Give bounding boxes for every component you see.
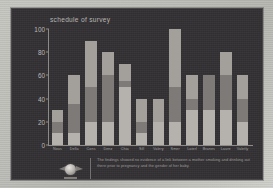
- stacked-bar[interactable]: [237, 75, 249, 145]
- bar-segment[interactable]: [220, 52, 232, 75]
- bar-segment[interactable]: [119, 87, 131, 145]
- stacked-bar[interactable]: [186, 75, 198, 145]
- stacked-bar[interactable]: [119, 64, 131, 145]
- bar-slot: [83, 29, 100, 145]
- bar-segment[interactable]: [169, 29, 181, 87]
- bar-segment[interactable]: [169, 87, 181, 122]
- bar-segment[interactable]: [136, 99, 148, 122]
- bar-segment[interactable]: [119, 64, 131, 81]
- x-axis-labels: NousDellaConsDenzChiaSillValerySmerLater…: [49, 147, 251, 151]
- bar-slot: [99, 29, 116, 145]
- stacked-bar[interactable]: [169, 29, 181, 145]
- y-axis-tick-label: 80: [38, 49, 45, 56]
- x-axis-label: Denz: [99, 147, 116, 151]
- bar-segment[interactable]: [203, 110, 215, 145]
- bar-slot: [49, 29, 66, 145]
- bar-segment[interactable]: [186, 75, 198, 98]
- bar-segment[interactable]: [85, 87, 97, 122]
- stacked-bar[interactable]: [153, 99, 165, 145]
- bar-segment[interactable]: [102, 122, 114, 145]
- emblem-wing-right: [76, 166, 83, 171]
- bar-segment[interactable]: [136, 122, 148, 134]
- x-axis-label: Nous: [49, 147, 66, 151]
- bar-segment[interactable]: [169, 122, 181, 145]
- bar-segment[interactable]: [68, 104, 80, 133]
- bar-segment[interactable]: [186, 99, 198, 111]
- bar-segment[interactable]: [237, 122, 249, 145]
- x-axis-label: Smer: [167, 147, 184, 151]
- bar-segment[interactable]: [153, 99, 165, 122]
- stacked-bar[interactable]: [85, 41, 97, 145]
- bar-slot: [167, 29, 184, 145]
- x-axis-label: Cons: [83, 147, 100, 151]
- bar-segment[interactable]: [85, 41, 97, 87]
- x-axis-label: Branes: [200, 147, 217, 151]
- y-axis-tick-label: 60: [38, 72, 45, 79]
- stacked-bar[interactable]: [203, 75, 215, 145]
- bar-segment[interactable]: [186, 110, 198, 145]
- bar-segment[interactable]: [102, 52, 114, 75]
- bar-slot: [150, 29, 167, 145]
- x-axis-label: Della: [66, 147, 83, 151]
- x-axis-line: [48, 145, 253, 146]
- stacked-bar[interactable]: [52, 110, 64, 145]
- stacked-bar[interactable]: [136, 99, 148, 145]
- x-axis-label: Laure: [217, 147, 234, 151]
- bar-slot: [234, 29, 251, 145]
- bar-segment[interactable]: [52, 110, 64, 122]
- bar-segment[interactable]: [220, 75, 232, 110]
- x-axis-label: Valetly: [234, 147, 251, 151]
- bar-slot: [116, 29, 133, 145]
- bar-segment[interactable]: [68, 133, 80, 145]
- footer-caption: The findings showed no evidence of a lin…: [97, 157, 250, 169]
- institution-emblem-icon: [58, 157, 84, 180]
- emblem-base: [64, 177, 77, 179]
- bar-segment[interactable]: [52, 133, 64, 145]
- x-axis-label: Laterl: [184, 147, 201, 151]
- bar-slot: [66, 29, 83, 145]
- y-axis-tick-label: 40: [38, 95, 45, 102]
- emblem-orb: [65, 164, 76, 175]
- stacked-bar[interactable]: [68, 75, 80, 145]
- bar-segment[interactable]: [203, 75, 215, 110]
- chart-title: schedule of survey: [50, 16, 110, 23]
- bar-slot: [133, 29, 150, 145]
- bar-segment[interactable]: [153, 122, 165, 145]
- stacked-bar[interactable]: [220, 52, 232, 145]
- bar-slot: [217, 29, 234, 145]
- y-axis-tick-label: 0: [41, 142, 45, 149]
- bar-segment[interactable]: [102, 75, 114, 121]
- bar-segment[interactable]: [237, 99, 249, 122]
- chart-footer: The findings showed no evidence of a lin…: [58, 157, 250, 180]
- x-axis-label: Chia: [116, 147, 133, 151]
- bar-slot: [200, 29, 217, 145]
- bar-segment[interactable]: [68, 75, 80, 104]
- bar-group: [49, 29, 251, 145]
- plot-area: 020406080100: [49, 29, 251, 145]
- bar-segment[interactable]: [220, 110, 232, 145]
- screenshot-frame: schedule of survey 020406080100 NousDell…: [0, 0, 273, 188]
- bar-segment[interactable]: [52, 122, 64, 134]
- y-axis-tick-label: 100: [34, 26, 45, 33]
- footer-divider: [90, 158, 91, 180]
- chart-panel: schedule of survey 020406080100 NousDell…: [11, 8, 263, 180]
- bar-segment[interactable]: [237, 75, 249, 98]
- bar-segment[interactable]: [85, 122, 97, 145]
- stacked-bar[interactable]: [102, 52, 114, 145]
- x-axis-label: Valery: [150, 147, 167, 151]
- bar-slot: [184, 29, 201, 145]
- x-axis-label: Sill: [133, 147, 150, 151]
- y-axis-tick-label: 20: [38, 118, 45, 125]
- bar-segment[interactable]: [136, 133, 148, 145]
